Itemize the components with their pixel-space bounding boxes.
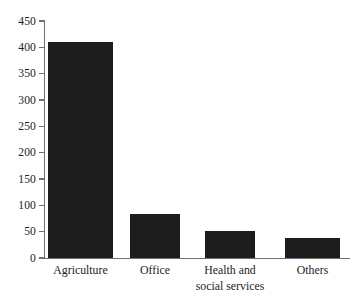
y-axis-tick-label: 200 [18,144,36,161]
plot-area [45,21,350,258]
y-axis-tick-label: 100 [18,197,36,214]
y-axis-tick-label: 150 [18,171,36,188]
y-axis-tick-label: 250 [18,118,36,135]
y-axis-tick-label: 300 [18,92,36,109]
y-axis-tick-label: 450 [18,13,36,30]
bar-chart-figure: 050100150200250300350400450 AgricultureO… [0,0,363,308]
bar [205,231,255,258]
bar [130,214,180,258]
x-axis-label: Others [253,263,363,279]
y-axis-tick-label: 50 [24,223,36,240]
bar [285,238,340,258]
bar [48,42,113,258]
y-axis-tick-label: 350 [18,65,36,82]
y-axis-tick-label: 400 [18,39,36,56]
